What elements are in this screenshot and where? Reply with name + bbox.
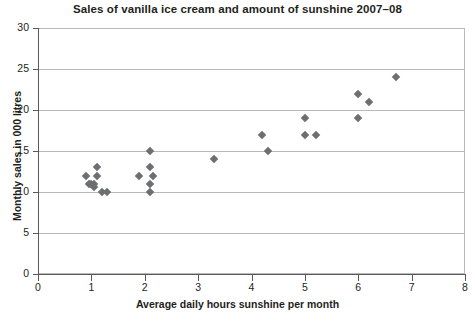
x-tick-label: 8 — [450, 281, 475, 293]
y-tick-label: 30 — [0, 21, 29, 33]
gridline-horizontal — [39, 69, 464, 70]
chart-title: Sales of vanilla ice cream and amount of… — [0, 3, 475, 15]
x-tick-label: 2 — [130, 281, 160, 293]
y-tick-mark — [33, 28, 39, 29]
x-tick-label: 5 — [290, 281, 320, 293]
y-tick-mark — [33, 192, 39, 193]
x-axis-title: Average daily hours sunshine per month — [0, 298, 475, 310]
plot-area — [38, 28, 465, 274]
x-tick-label: 1 — [76, 281, 106, 293]
gridline-horizontal — [39, 233, 464, 234]
y-axis-title: Monthly sales in 000 litres — [11, 56, 23, 256]
y-tick-mark — [33, 110, 39, 111]
x-tick-label: 4 — [237, 281, 267, 293]
x-tick-label: 7 — [397, 281, 427, 293]
gridline-horizontal — [39, 110, 464, 111]
gridline-horizontal — [39, 151, 464, 152]
x-tick-label: 0 — [23, 281, 53, 293]
y-tick-mark — [33, 233, 39, 234]
y-tick-label: 0 — [0, 267, 29, 279]
scatter-chart: Sales of vanilla ice cream and amount of… — [0, 0, 475, 321]
x-tick-label: 3 — [183, 281, 213, 293]
y-tick-mark — [33, 151, 39, 152]
x-tick-label: 6 — [343, 281, 373, 293]
y-tick-mark — [33, 69, 39, 70]
